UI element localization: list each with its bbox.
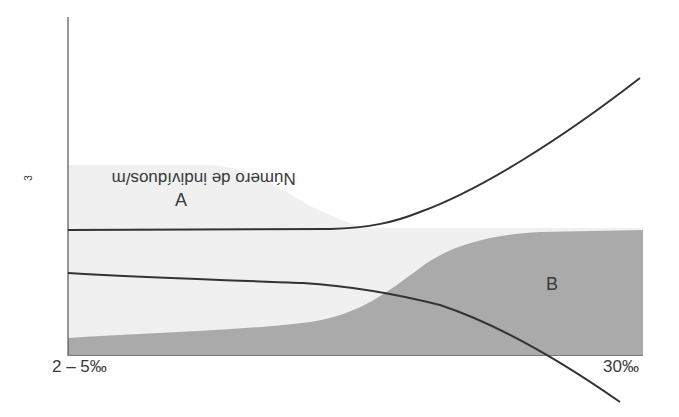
x-tick-start: 2 – 5‰ [52,357,107,377]
x-tick-end: 30‰ [603,357,639,377]
y-axis-label: Número de indivíduos/m3 [6,0,66,417]
region-a-label: A [175,190,187,211]
chart-canvas [0,0,679,417]
region-b-label: B [546,274,558,295]
y-axis-label-superscript: 3 [23,175,34,181]
y-axis-label-text: Número de indivíduos/m [112,168,296,188]
